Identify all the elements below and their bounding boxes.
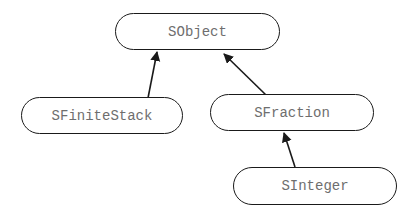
node-sinteger: SInteger [233, 167, 397, 205]
node-label: SInteger [281, 178, 348, 194]
edge-sfinitestack-to-sobject [148, 52, 157, 98]
node-sfinitestack: SFiniteStack [21, 97, 183, 134]
node-sfraction: SFraction [210, 94, 374, 131]
edge-sfraction-to-sobject [224, 54, 266, 95]
node-label: SObject [168, 24, 227, 40]
node-label: SFraction [254, 105, 330, 121]
node-label: SFiniteStack [52, 108, 153, 124]
edge-sinteger-to-sfraction [284, 133, 295, 167]
node-sobject: SObject [115, 13, 280, 50]
